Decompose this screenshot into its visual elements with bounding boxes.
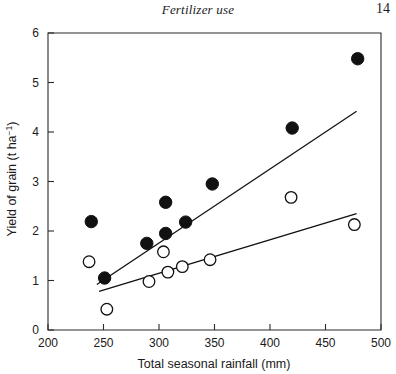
x-tick-label: 500 [371, 336, 391, 350]
data-point-unfertilized [83, 256, 95, 268]
data-point-unfertilized [349, 219, 361, 231]
header-title: Fertilizer use [0, 2, 396, 18]
data-point-fertilized [286, 122, 298, 134]
x-tick-label: 250 [93, 336, 113, 350]
data-point-fertilized [179, 216, 191, 228]
regression-line-unfertilized [99, 214, 357, 292]
page-number: 14 [376, 1, 390, 17]
x-tick-label: 200 [38, 336, 58, 350]
x-tick-label: 400 [260, 336, 280, 350]
data-point-unfertilized [158, 246, 170, 258]
y-tick-label: 4 [32, 125, 39, 139]
y-tick-label: 6 [32, 26, 39, 40]
x-tick-label: 450 [315, 336, 335, 350]
regression-lines [97, 111, 357, 291]
y-axis-ticks [48, 33, 54, 330]
data-point-unfertilized [143, 276, 155, 288]
data-point-unfertilized [285, 192, 297, 204]
data-point-fertilized [159, 196, 171, 208]
regression-line-fertilized [97, 111, 357, 284]
data-point-fertilized [98, 272, 110, 284]
x-tick-label: 300 [149, 336, 169, 350]
y-tick-label: 5 [32, 76, 39, 90]
y-tick-label: 2 [32, 224, 39, 238]
data-point-fertilized [141, 237, 153, 249]
x-axis-title: Total seasonal rainfall (mm) [138, 357, 291, 371]
data-point-unfertilized [204, 254, 216, 266]
data-point-fertilized [85, 215, 97, 227]
y-tick-label: 0 [32, 323, 39, 337]
scatter-plot-svg: 200250300350400450500 0123456 Total seas… [0, 24, 396, 374]
data-point-fertilized [159, 227, 171, 239]
data-point-unfertilized [101, 303, 113, 315]
data-point-markers [83, 53, 364, 315]
data-point-fertilized [206, 178, 218, 190]
y-axis-title: Yield of grain (t ha−1) [4, 122, 19, 237]
data-point-unfertilized [162, 266, 174, 278]
y-tick-label: 3 [32, 175, 39, 189]
x-axis-tick-labels: 200250300350400450500 [38, 336, 391, 350]
running-header: Fertilizer use 14 [0, 0, 396, 24]
data-point-unfertilized [177, 261, 189, 273]
figure-page: Fertilizer use 14 200250300350400450500 … [0, 0, 396, 374]
y-tick-label: 1 [32, 274, 39, 288]
scatter-plot-figure: 200250300350400450500 0123456 Total seas… [0, 24, 396, 374]
x-axis-ticks [48, 324, 381, 330]
x-tick-label: 350 [204, 336, 224, 350]
y-axis-tick-labels: 0123456 [32, 26, 39, 337]
data-point-fertilized [351, 53, 363, 65]
